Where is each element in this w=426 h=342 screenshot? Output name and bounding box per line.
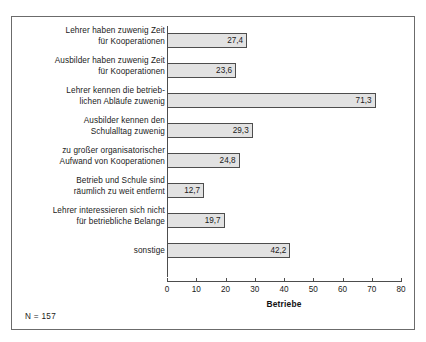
bar-value-label: 42,2: [167, 243, 290, 258]
chart-figure: Lehrer haben zuwenig Zeit für Kooperatio…: [11, 16, 415, 330]
category-label: Betrieb und Schule sind räumlich zu weit…: [17, 176, 165, 197]
category-label: Ausbilder haben zuwenig Zeit für Koopera…: [17, 56, 165, 77]
x-axis-title: Betriebe: [167, 299, 401, 309]
plot-wrapper: Lehrer haben zuwenig Zeit für Kooperatio…: [12, 17, 414, 329]
x-tick: [372, 278, 373, 282]
x-tick-label: 70: [360, 285, 384, 294]
bar-row: 71,3: [167, 86, 403, 116]
x-tick: [284, 278, 285, 282]
x-tick: [401, 278, 402, 282]
x-tick: [226, 278, 227, 282]
plot-area: 27,423,671,329,324,812,719,742,2: [167, 26, 403, 281]
category-label: Lehrer haben zuwenig Zeit für Kooperatio…: [17, 26, 165, 47]
x-tick-label: 10: [184, 285, 208, 294]
bar-row: 12,7: [167, 176, 403, 206]
bar-row: 23,6: [167, 56, 403, 86]
category-label: Ausbilder kennen den Schulalltag zuwenig: [17, 116, 165, 137]
x-tick-label: 50: [301, 285, 325, 294]
bar-row: 24,8: [167, 146, 403, 176]
x-tick: [196, 278, 197, 282]
bar-value-label: 71,3: [167, 93, 376, 108]
category-row: zu großer organisatorischer Aufwand von …: [17, 146, 165, 176]
x-tick-label: 60: [331, 285, 355, 294]
category-label: Lehrer interessieren sich nicht für betr…: [17, 206, 165, 227]
bar-value-label: 12,7: [167, 183, 204, 198]
x-tick-label: 20: [214, 285, 238, 294]
x-tick-label: 40: [272, 285, 296, 294]
bar-row: 27,4: [167, 26, 403, 56]
category-row: Ausbilder haben zuwenig Zeit für Koopera…: [17, 56, 165, 86]
category-label: zu großer organisatorischer Aufwand von …: [17, 146, 165, 167]
x-tick-label: 0: [155, 285, 179, 294]
category-row: Ausbilder kennen den Schulalltag zuwenig: [17, 116, 165, 146]
bar-row: 42,2: [167, 236, 403, 266]
bar-row: 19,7: [167, 206, 403, 236]
x-tick: [167, 278, 168, 282]
x-tick: [313, 278, 314, 282]
category-row: sonstige: [17, 236, 165, 266]
bar-value-label: 27,4: [167, 33, 247, 48]
x-tick-label: 30: [243, 285, 267, 294]
x-tick: [255, 278, 256, 282]
x-tick-label: 80: [389, 285, 413, 294]
category-label: sonstige: [17, 236, 165, 257]
sample-size-note: N = 157: [25, 312, 56, 321]
category-row: Lehrer interessieren sich nicht für betr…: [17, 206, 165, 236]
x-tick: [343, 278, 344, 282]
bar-value-label: 19,7: [167, 213, 225, 228]
category-row: Lehrer kennen die betrieb- lichen Abläuf…: [17, 86, 165, 116]
category-row: Lehrer haben zuwenig Zeit für Kooperatio…: [17, 26, 165, 56]
bar-value-label: 29,3: [167, 123, 253, 138]
bar-value-label: 23,6: [167, 63, 236, 78]
bar-row: 29,3: [167, 116, 403, 146]
bar-value-label: 24,8: [167, 153, 240, 168]
category-labels-column: Lehrer haben zuwenig Zeit für Kooperatio…: [17, 26, 165, 266]
scan-artifact: [0, 0, 426, 9]
category-label: Lehrer kennen die betrieb- lichen Abläuf…: [17, 86, 165, 107]
x-axis: 01020304050607080 Betriebe: [167, 281, 403, 325]
category-row: Betrieb und Schule sind räumlich zu weit…: [17, 176, 165, 206]
